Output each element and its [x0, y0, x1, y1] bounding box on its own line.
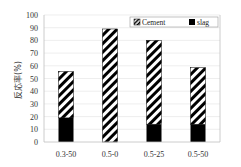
- y-tick-label: 50: [30, 75, 38, 84]
- bar-segment-cement: [59, 72, 74, 118]
- y-tick-label: 60: [30, 62, 38, 71]
- y-axis-ticks: 0102030405060708090100: [26, 11, 38, 147]
- bar-segment-cement: [191, 68, 206, 125]
- legend-label-cement: Cement: [142, 18, 166, 27]
- y-tick-label: 20: [30, 113, 38, 122]
- y-tick-label: 80: [30, 36, 38, 45]
- y-tick-label: 100: [26, 11, 38, 20]
- y-tick-label: 10: [30, 125, 38, 134]
- legend: Cement slag: [130, 17, 218, 27]
- bar-segment-slag: [191, 124, 206, 142]
- stacked-bar-chart: 0102030405060708090100 反応率(%) 0.3-500.5-…: [0, 0, 241, 167]
- x-tick-label: 0.5-50: [188, 150, 209, 159]
- bars: [59, 29, 206, 142]
- bar-segment-slag: [59, 118, 74, 142]
- x-tick-label: 0.5-0: [102, 150, 119, 159]
- x-tick-label: 0.3-50: [56, 150, 77, 159]
- legend-swatch-slag: [189, 19, 195, 25]
- x-axis-ticks: 0.3-500.5-00.5-250.5-50: [56, 150, 209, 159]
- bar-segment-cement: [103, 29, 118, 142]
- x-tick-label: 0.5-25: [144, 150, 165, 159]
- y-tick-label: 30: [30, 100, 38, 109]
- y-tick-label: 0: [34, 138, 38, 147]
- y-axis-label: 反応率(%): [13, 61, 23, 99]
- legend-label-slag: slag: [197, 18, 209, 27]
- y-tick-label: 90: [30, 24, 38, 33]
- bar-segment-cement: [147, 40, 162, 124]
- y-tick-label: 70: [30, 49, 38, 58]
- y-tick-label: 40: [30, 87, 38, 96]
- bar-segment-slag: [147, 124, 162, 142]
- legend-swatch-cement: [134, 19, 140, 25]
